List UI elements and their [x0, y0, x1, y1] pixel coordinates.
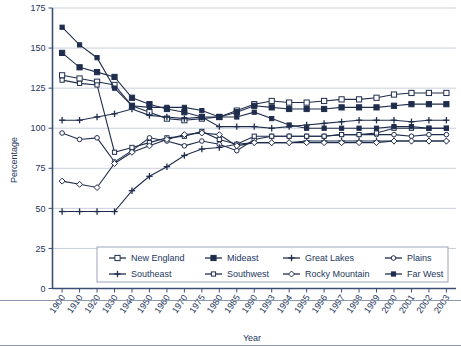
line-chart: 0255075100125150175 19001910192019301940…: [0, 0, 461, 346]
data-point: [409, 102, 414, 107]
data-point: [235, 115, 239, 119]
chart-legend: New EnglandMideastGreat LakesPlainsSouth…: [97, 247, 448, 282]
data-point: [60, 25, 64, 29]
data-point: [252, 134, 256, 138]
data-point: [287, 106, 292, 111]
data-point: [443, 138, 449, 144]
legend-item-label: Plains: [407, 253, 432, 263]
data-point: [270, 116, 274, 120]
x-tick-label: 1994: [275, 293, 295, 315]
data-point: [356, 105, 361, 110]
data-point: [211, 255, 216, 260]
data-point: [357, 126, 361, 130]
x-tick-label: 1990: [240, 293, 260, 315]
data-point: [216, 132, 222, 138]
x-tick-label: 1999: [362, 293, 382, 315]
data-point: [59, 178, 65, 184]
data-point: [391, 272, 395, 276]
data-point: [77, 76, 82, 81]
data-point: [287, 123, 291, 127]
data-point: [426, 102, 431, 107]
data-point: [444, 102, 449, 107]
x-tick-label: 1910: [65, 293, 85, 315]
x-tick-label: 1930: [100, 293, 120, 315]
data-point: [147, 105, 151, 109]
data-point: [426, 138, 432, 144]
data-point: [305, 134, 309, 138]
data-point: [322, 134, 326, 138]
x-tick-label: 1950: [135, 293, 155, 315]
series-southeast: [59, 138, 450, 215]
data-point: [391, 92, 396, 97]
data-point: [60, 131, 65, 136]
data-point: [130, 104, 134, 108]
series-line: [62, 141, 446, 212]
data-point: [322, 98, 327, 103]
data-point: [217, 115, 221, 119]
data-point: [391, 103, 396, 108]
data-point: [165, 105, 169, 109]
data-point: [60, 50, 65, 55]
x-tick-label: 1997: [327, 293, 347, 315]
data-point: [339, 97, 344, 102]
x-tick-label: 1998: [345, 293, 365, 315]
data-point: [112, 74, 117, 79]
data-point: [444, 126, 448, 130]
data-point: [269, 105, 274, 110]
data-point: [322, 126, 326, 130]
data-point: [77, 81, 81, 85]
data-point: [77, 137, 82, 142]
data-point: [357, 133, 361, 137]
data-point: [60, 73, 65, 78]
y-tick-label: 150: [30, 43, 45, 53]
x-tick-label: 1975: [187, 293, 207, 315]
x-tick-label: 2003: [432, 293, 452, 315]
data-point: [252, 103, 257, 108]
x-axis-tick-labels: 1900191019201930194019501960197019751980…: [48, 293, 452, 315]
data-point: [269, 98, 274, 103]
x-tick-label: 1985: [222, 293, 242, 315]
data-point: [426, 90, 431, 95]
data-point: [95, 83, 99, 87]
y-tick-label: 125: [30, 83, 45, 93]
chart-figure: 0255075100125150175 19001910192019301940…: [0, 0, 461, 346]
data-point: [356, 97, 361, 102]
data-point: [339, 133, 343, 137]
data-point: [147, 136, 152, 141]
x-tick-label: 1900: [48, 293, 68, 315]
data-point: [322, 106, 327, 111]
y-axis-title: Percentage: [9, 137, 19, 183]
x-tick-label: 2000: [379, 293, 399, 315]
series-mideast: [60, 50, 449, 119]
x-tick-label: 1996: [310, 293, 330, 315]
data-point: [339, 105, 344, 110]
legend-item-label: Southeast: [131, 269, 172, 279]
y-tick-label: 25: [35, 244, 45, 254]
x-tick-label: 1980: [205, 293, 225, 315]
data-point: [252, 110, 256, 114]
data-point: [374, 95, 379, 100]
data-point: [60, 78, 64, 82]
y-tick-label: 175: [30, 3, 45, 13]
legend-item-label: Great Lakes: [305, 253, 355, 263]
data-point: [409, 90, 414, 95]
data-point: [182, 144, 187, 149]
data-point: [270, 134, 274, 138]
data-point: [77, 65, 82, 70]
chart-series-group: [59, 25, 450, 215]
x-tick-label: 1920: [82, 293, 102, 315]
data-point: [427, 126, 431, 130]
data-point: [374, 126, 378, 130]
y-tick-label: 75: [35, 163, 45, 173]
data-point: [129, 95, 134, 100]
data-point: [182, 110, 187, 115]
data-point: [77, 43, 81, 47]
x-tick-label: 2002: [414, 293, 434, 315]
data-point: [200, 139, 205, 144]
data-point: [211, 272, 215, 276]
data-point: [304, 100, 309, 105]
data-point: [95, 136, 100, 141]
data-point: [408, 138, 414, 144]
x-tick-label: 1970: [170, 293, 190, 315]
series-far-west: [60, 25, 448, 130]
